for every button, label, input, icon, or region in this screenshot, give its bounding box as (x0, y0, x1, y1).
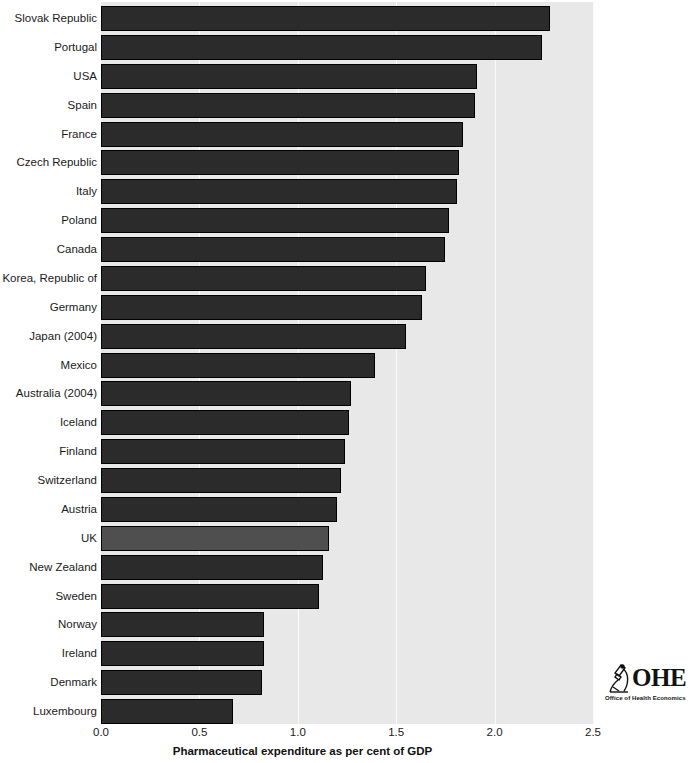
bar (101, 526, 329, 551)
bar-row (101, 695, 593, 728)
bar (101, 468, 341, 493)
bar (101, 555, 323, 580)
plot-area: OHE Office of Health Economics (101, 2, 593, 724)
bar (101, 410, 349, 435)
x-axis-tick-label: 2.5 (585, 726, 601, 738)
bar (101, 353, 375, 378)
bar (101, 6, 550, 31)
x-axis-tick-label: 2.0 (487, 726, 503, 738)
x-axis-tick-label: 1.0 (290, 726, 306, 738)
bar (101, 179, 457, 204)
bar (101, 64, 477, 89)
bar (101, 122, 463, 147)
x-axis-tick-label: 1.5 (388, 726, 404, 738)
bar (101, 584, 319, 609)
bar (101, 266, 426, 291)
bar (101, 324, 406, 349)
x-axis-title: Pharmaceutical expenditure as per cent o… (0, 745, 605, 757)
logo-subtitle: Office of Health Economics (605, 695, 686, 701)
bar (101, 381, 351, 406)
x-axis-tick-label: 0.5 (191, 726, 207, 738)
logo-wordmark: OHE (632, 664, 686, 692)
bar (101, 497, 337, 522)
bar (101, 670, 262, 695)
bar (101, 208, 449, 233)
bar (101, 150, 459, 175)
bar (101, 699, 233, 724)
x-axis: 0.00.51.01.52.02.5 (101, 726, 593, 746)
bar (101, 35, 542, 60)
bar (101, 641, 264, 666)
gridline (593, 2, 594, 724)
bar (101, 612, 264, 637)
bar (101, 439, 345, 464)
ohe-logo: OHE Office of Health Economics (604, 662, 690, 706)
bar (101, 237, 445, 262)
microscope-icon (604, 662, 634, 696)
category-label: Luxembourg (0, 695, 97, 728)
x-axis-tick-label: 0.0 (93, 726, 109, 738)
bar (101, 93, 475, 118)
bar (101, 295, 422, 320)
